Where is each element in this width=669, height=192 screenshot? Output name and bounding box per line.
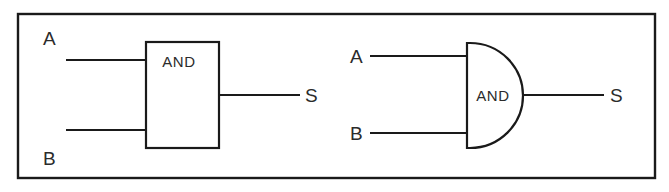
input-label-a-dshape: A [350,46,363,67]
input-label-b-rect: B [43,148,56,169]
logic-gate-figure: A B S AND A B S AND [0,0,669,192]
output-label-s-dshape: S [610,85,623,106]
rectangular-and-diagram: A B S AND [43,28,318,169]
and-gate-dshape-label: AND [476,87,509,104]
figure-canvas: A B S AND A B S AND [0,0,669,192]
output-label-s-rect: S [305,85,318,106]
distinctive-and-diagram: A B S AND [350,43,623,148]
input-label-a-rect: A [43,28,56,49]
and-gate-box-label: AND [162,53,195,70]
input-label-b-dshape: B [350,123,363,144]
